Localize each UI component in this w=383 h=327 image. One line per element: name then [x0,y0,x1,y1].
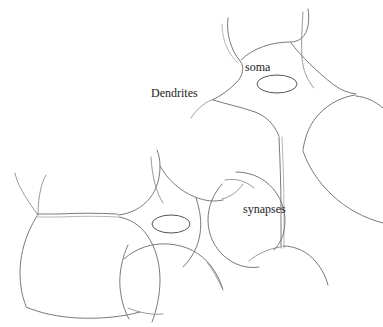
upper-soma-arc-rightdown [303,95,355,150]
upper-dendrite-top-right [302,12,314,88]
lower-soma-arc-topleft [118,150,160,215]
lower-left-bottom-arc [26,307,140,318]
upper-soma-arc-bottomleft [213,100,279,136]
upper-dendrite-left-tip [191,100,211,118]
sketch-canvas: soma Dendrites synapses [0,0,383,327]
neuron-diagram [0,0,383,327]
lateral-axon-upper-edge [37,213,117,214]
left-dendrite-fork-upper [15,173,38,215]
upper-soma-arc-right-lower [356,96,383,108]
label-synapses: synapses [243,203,286,215]
lower-soma-arc-right [183,198,201,267]
synapse-arc-inner [225,179,254,188]
label-dendrites: Dendrites [151,87,198,99]
bottom-centre-arc-dome [124,244,223,290]
lower-soma-arc-bottom [119,217,160,322]
lower-right-arc [303,151,383,223]
bottom-centre-arc-right [207,262,222,288]
left-dendrite-fork-lower [20,216,37,306]
synapse-arc-lower [208,184,259,268]
lower-dendrite-right-up [222,184,243,199]
lateral-axon-lower-edge [38,216,118,217]
axon-terminal-arc-right [283,246,328,285]
upper-dendrite-branch-inner [222,24,238,63]
upper-soma-arc-right-upper [291,43,356,94]
lower-dendrite-up [151,157,163,203]
lower-nucleus [152,215,190,233]
upper-nucleus [257,75,297,93]
descending-axon-left-edge [279,137,281,248]
left-dendrite-fork-middle [38,175,46,215]
label-soma: soma [245,61,270,73]
upper-soma-arc-topleft [212,18,243,100]
